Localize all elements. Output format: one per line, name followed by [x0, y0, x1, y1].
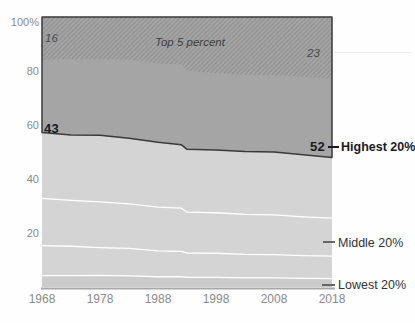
- x-tick-2008: 2008: [252, 292, 296, 306]
- middle-20-leader-line: [323, 241, 335, 243]
- middle-20-label: Middle 20%: [338, 236, 403, 250]
- x-tick-1988: 1988: [136, 292, 180, 306]
- lowest-20-leader-line: [322, 284, 335, 286]
- y-tick-40: 40: [0, 173, 39, 185]
- y-tick-60: 60: [0, 119, 39, 131]
- lowest-20-label: Lowest 20%: [338, 278, 406, 292]
- y-tick-20: 20: [0, 227, 39, 239]
- x-tick-1968: 1968: [20, 292, 64, 306]
- x-tick-2018: 2018: [310, 292, 354, 306]
- area-lower-quintiles: [42, 133, 332, 287]
- highest20-end-value-label: 52: [310, 139, 325, 154]
- highest-20-leader-line: [328, 146, 339, 148]
- top5-start-value-label: 16: [45, 32, 58, 44]
- highest-20-label: Highest 20%: [341, 140, 415, 154]
- x-tick-1978: 1978: [78, 292, 122, 306]
- top5-area-label: Top 5 percent: [155, 36, 225, 48]
- highest20-start-value-label: 43: [44, 121, 59, 136]
- y-tick-80: 80: [0, 65, 39, 77]
- scan-artifact-line: [334, 52, 412, 53]
- y-tick-100: 100%: [0, 16, 39, 28]
- x-tick-1998: 1998: [194, 292, 238, 306]
- top5-end-value-label: 23: [307, 47, 320, 59]
